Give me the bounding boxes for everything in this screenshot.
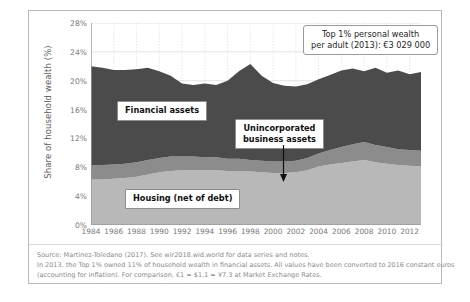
- x-tick-label: 2008: [355, 227, 374, 236]
- callout-financial-assets: Financial assets: [117, 101, 207, 121]
- figure-frame: Share of household wealth (%) 0%4%8%12%1…: [28, 10, 442, 284]
- callout-financial-label: Financial assets: [125, 105, 199, 115]
- x-tick-label: 2006: [332, 227, 351, 236]
- x-tick-label: 2012: [400, 227, 419, 236]
- callout-business-label-1: Unincorporated: [243, 123, 316, 134]
- notes-divider: [29, 244, 443, 245]
- notes-source: Source: Martinez-Toledano (2017). See wi…: [37, 250, 435, 260]
- notes-detail-1: In 2013, the Top 1% owned 11% of househo…: [37, 260, 435, 270]
- callout-top1-wealth: Top 1% personal wealth per adult (2013):…: [303, 25, 438, 55]
- x-tick-label: 1996: [218, 227, 237, 236]
- callout-business-label-2: business assets: [243, 134, 316, 145]
- x-tick-label: 1986: [104, 227, 123, 236]
- x-tick-label: 2002: [286, 227, 305, 236]
- figure-notes: Source: Martinez-Toledano (2017). See wi…: [37, 250, 435, 280]
- x-axis-ticks: 1984198619881990199219941996199820002002…: [91, 227, 421, 241]
- down-arrow-icon: [279, 145, 288, 183]
- y-tick-label: 28%: [53, 19, 87, 28]
- x-tick-label: 2010: [377, 227, 396, 236]
- x-tick-label: 2000: [264, 227, 283, 236]
- callout-top1-label-2: per adult (2013): €3 029 000: [311, 40, 430, 51]
- y-tick-label: 8%: [53, 163, 87, 172]
- y-axis-ticks: 0%4%8%12%16%20%24%28%: [43, 23, 87, 225]
- y-tick-label: 24%: [53, 47, 87, 56]
- x-tick-label: 1984: [82, 227, 101, 236]
- x-tick-label: 1998: [241, 227, 260, 236]
- x-tick-label: 1988: [127, 227, 146, 236]
- x-tick-label: 1990: [150, 227, 169, 236]
- y-tick-label: 12%: [53, 134, 87, 143]
- notes-detail-2: (accounting for inflation). For comparis…: [37, 270, 435, 280]
- y-tick-label: 20%: [53, 76, 87, 85]
- callout-housing: Housing (net of debt): [125, 189, 240, 209]
- callout-top1-label-1: Top 1% personal wealth: [311, 29, 430, 40]
- callout-housing-label: Housing (net of debt): [133, 193, 232, 203]
- x-tick-label: 1992: [173, 227, 192, 236]
- y-tick-label: 4%: [53, 192, 87, 201]
- chart-area: Share of household wealth (%) 0%4%8%12%1…: [29, 11, 443, 243]
- x-tick-label: 1994: [195, 227, 214, 236]
- y-tick-label: 16%: [53, 105, 87, 114]
- x-tick-label: 2004: [309, 227, 328, 236]
